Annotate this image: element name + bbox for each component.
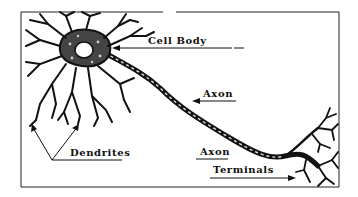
axon-terminals-shape — [296, 108, 338, 186]
neuron-illustration — [0, 0, 358, 197]
label-leaders — [32, 48, 292, 178]
cell-body-shape — [60, 30, 111, 67]
label-axon-terminals-line2: Terminals — [213, 165, 274, 175]
arrowheads — [31, 45, 296, 181]
neuron-diagram: Cell Body Axon Dendrites Axon Terminals — [0, 0, 358, 197]
label-axon-terminals-line1: Axon — [200, 147, 230, 157]
label-dendrites: Dendrites — [70, 148, 130, 158]
label-axon: Axon — [203, 89, 233, 99]
label-cell-body: Cell Body — [148, 36, 207, 46]
